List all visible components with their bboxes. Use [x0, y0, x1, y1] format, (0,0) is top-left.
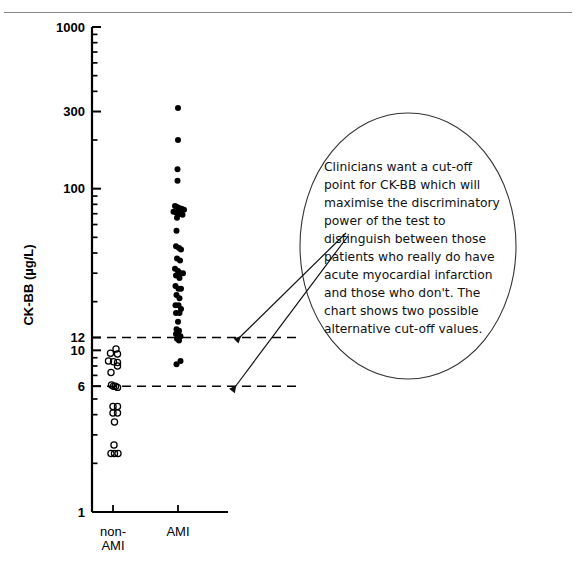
data-point — [111, 442, 117, 448]
x-axis-category-labels: non-AMIAMI — [100, 524, 190, 553]
data-point — [175, 178, 181, 184]
callout-text-line: acute myocardial infarction — [324, 268, 493, 282]
data-point — [177, 275, 183, 281]
y-axis-title: CK-BB (µg/L) — [21, 244, 36, 325]
y-axis-title-text: CK-BB (µg/L) — [21, 244, 36, 325]
y-tick-label: 1 — [78, 505, 85, 520]
callout-text-line: point for CK-BB which will — [324, 178, 480, 192]
data-point — [176, 338, 182, 344]
data-point — [175, 137, 181, 143]
data-point — [174, 228, 180, 234]
callout-text-line: Clinicians want a cut-off — [324, 160, 473, 174]
data-point — [180, 270, 186, 276]
callout-text-line: patients who really do have — [324, 250, 495, 264]
data-point — [107, 350, 113, 356]
figure-page: 1000300100121061 non-AMIAMI CK-BB (µg/L)… — [0, 0, 576, 573]
data-point — [111, 419, 117, 425]
data-point — [174, 215, 180, 221]
data-point — [177, 295, 183, 301]
data-point — [108, 369, 114, 375]
callout-text-line: alternative cut-off values. — [324, 322, 482, 336]
y-tick-label: 6 — [78, 379, 85, 394]
y-axis-ticks — [92, 27, 101, 512]
callout-text-line: power of the test to — [324, 214, 446, 228]
series-non-ami-points — [105, 346, 121, 457]
x-category-label: AMI — [166, 524, 189, 539]
data-point — [178, 247, 184, 253]
data-point — [114, 403, 120, 409]
y-axis-tick-labels: 1000300100121061 — [56, 20, 85, 520]
data-point — [175, 105, 181, 111]
data-point — [177, 310, 183, 316]
callout-text-line: and those who don't. The — [324, 286, 480, 300]
y-tick-label: 100 — [63, 181, 85, 196]
data-point — [178, 358, 184, 364]
cutoff-lines — [92, 338, 302, 387]
callout-text-line: maximise the discriminatory — [324, 196, 500, 210]
x-category-label: non- — [100, 524, 126, 539]
dot-plot-figure: 1000300100121061 non-AMIAMI CK-BB (µg/L)… — [0, 0, 576, 573]
callout-text-line: distinguish between those — [324, 232, 486, 246]
data-point — [180, 212, 186, 218]
callout-text-line: chart shows two possible — [324, 304, 479, 318]
y-tick-label: 10 — [71, 343, 85, 358]
x-category-label: AMI — [101, 538, 124, 553]
data-point — [177, 257, 183, 263]
y-tick-label: 1000 — [56, 20, 85, 35]
data-point — [175, 166, 181, 172]
data-point — [114, 410, 120, 416]
y-tick-label: 300 — [63, 104, 85, 119]
data-point — [178, 286, 184, 292]
data-point — [114, 384, 120, 390]
data-point — [175, 319, 181, 325]
chart-axes — [92, 27, 228, 512]
series-ami-points — [171, 105, 188, 367]
